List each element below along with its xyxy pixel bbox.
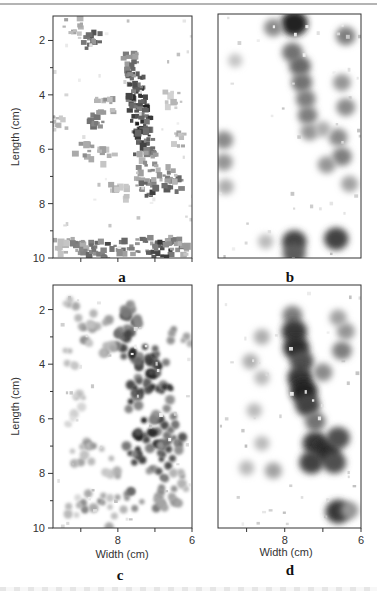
panel-c-x-axis-title: Width (cm) [95, 548, 148, 560]
density-speckle [230, 361, 234, 363]
density-cell [127, 72, 133, 76]
density-speckle [254, 416, 256, 419]
density-dot [160, 451, 167, 458]
density-blob [318, 156, 336, 173]
panel-c-x-axis: 86 [81, 528, 195, 546]
density-dot [171, 326, 177, 332]
density-cell [163, 90, 169, 95]
density-cell [157, 172, 162, 178]
panel-a-density [48, 16, 194, 265]
density-dot [143, 436, 151, 444]
density-cell [143, 238, 148, 243]
x-tick-label: 6 [358, 534, 364, 546]
density-speckle [152, 197, 155, 201]
density-cell [95, 97, 98, 100]
density-speckle [245, 242, 248, 245]
density-cell [124, 184, 129, 189]
density-blob [330, 310, 347, 326]
density-dot [171, 485, 178, 492]
density-cell [130, 77, 134, 80]
density-blob [281, 11, 308, 36]
density-cell [171, 168, 176, 173]
density-speckle [65, 44, 68, 48]
panel-c: 246810 86 Length (cm) Width (cm) c [9, 285, 195, 583]
density-cell [83, 153, 87, 157]
density-cell [70, 240, 76, 246]
density-cell [146, 251, 151, 255]
density-speckle [155, 362, 157, 366]
density-cell [123, 251, 128, 257]
panel-a-y-axis-title: Length (cm) [9, 108, 21, 167]
density-cell [178, 133, 182, 136]
density-cell [90, 145, 94, 149]
panel-c-frame [53, 285, 192, 528]
density-cell [55, 123, 60, 127]
density-speckle [305, 390, 307, 394]
density-cell [135, 52, 139, 55]
density-cell [145, 178, 150, 182]
panel-b: b [214, 11, 361, 285]
density-dot [178, 432, 187, 441]
density-cell [130, 119, 133, 123]
density-cell [178, 186, 185, 191]
density-dot [165, 395, 175, 405]
density-dot [134, 357, 143, 366]
density-dot [65, 503, 72, 510]
density-dot [155, 468, 162, 475]
density-cell [86, 32, 93, 37]
density-cell [94, 245, 98, 248]
density-cell [97, 31, 102, 36]
density-cell [63, 26, 66, 28]
density-dot [156, 498, 166, 508]
density-dot [143, 382, 148, 387]
density-cell [81, 40, 87, 45]
density-speckle [105, 178, 107, 180]
y-tick-label: 10 [33, 522, 45, 534]
density-speckle [89, 43, 92, 47]
density-cell [140, 95, 144, 98]
density-speckle [327, 331, 330, 333]
density-cell [171, 141, 177, 147]
density-speckle [354, 194, 358, 197]
density-dot [74, 494, 81, 501]
density-speckle [237, 496, 240, 499]
density-dot [107, 504, 113, 510]
density-speckle [292, 257, 295, 260]
density-speckle [174, 174, 178, 177]
density-speckle [100, 446, 102, 449]
density-cell [56, 117, 59, 119]
density-speckle [353, 485, 357, 487]
panel-a-x-axis [81, 258, 192, 262]
density-dot [106, 531, 114, 539]
density-speckle [183, 19, 187, 22]
density-speckle [79, 365, 82, 369]
density-cell [98, 124, 103, 128]
density-cell [167, 241, 172, 246]
density-speckle [291, 192, 295, 196]
density-cell [114, 186, 120, 192]
density-cell [152, 185, 159, 191]
density-speckle [294, 33, 297, 37]
density-speckle [139, 112, 142, 116]
density-speckle [177, 53, 180, 57]
density-speckle [126, 518, 129, 521]
density-speckle [319, 207, 322, 210]
density-cell [103, 98, 107, 102]
density-speckle [117, 246, 121, 249]
density-cell [142, 75, 146, 80]
density-dot [82, 507, 89, 514]
density-cell [151, 177, 156, 182]
density-cell [135, 87, 140, 92]
density-speckle [324, 516, 327, 519]
panel-b-density [214, 11, 361, 264]
density-speckle [341, 141, 343, 144]
density-dot [165, 446, 172, 453]
density-speckle [167, 60, 169, 63]
density-dot [161, 474, 169, 482]
density-dot [131, 390, 138, 397]
panel-c-y-axis-title: Length (cm) [9, 377, 21, 436]
density-cell [138, 115, 144, 119]
density-speckle [318, 417, 321, 421]
density-dot [85, 339, 93, 347]
density-cell [154, 164, 158, 167]
